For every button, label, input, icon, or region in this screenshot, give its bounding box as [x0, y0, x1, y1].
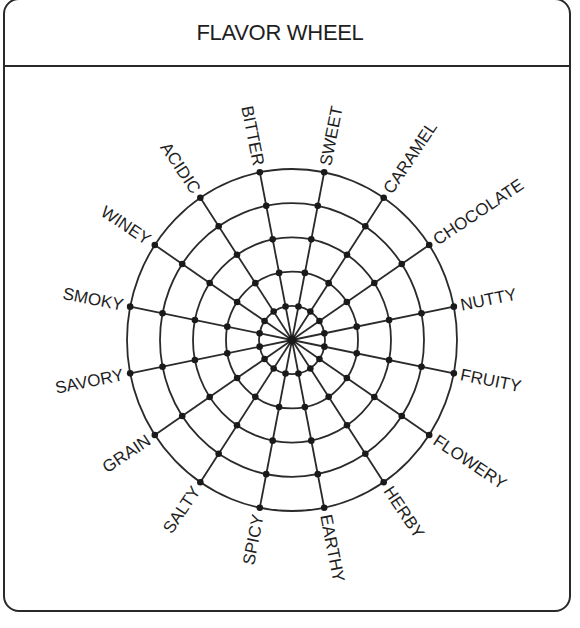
flavor-label-herby: HERBY: [380, 483, 428, 542]
spoke-dot: [325, 280, 332, 287]
spoke-dot: [344, 375, 351, 382]
spoke-dot: [224, 350, 231, 357]
spoke-dot: [252, 280, 259, 287]
spoke-dot: [179, 413, 186, 420]
spoke-dot: [308, 437, 315, 444]
spoke-dot: [234, 375, 241, 382]
flavor-label-fruity: FRUITY: [459, 365, 523, 396]
spoke-dot: [252, 394, 259, 401]
spoke-dot: [159, 363, 166, 370]
spoke-dot: [295, 370, 302, 377]
spoke-dot: [353, 350, 360, 357]
spoke-dot: [192, 317, 199, 324]
flavor-label-grain: GRAIN: [99, 431, 154, 477]
spoke-dot: [282, 303, 289, 310]
spoke-dot: [197, 195, 204, 202]
spoke-dot: [192, 357, 199, 364]
spoke-dot: [308, 236, 315, 243]
spoke-dot: [270, 308, 277, 315]
spoke-dot: [276, 404, 283, 411]
spoke-dot: [179, 261, 186, 268]
spoke-dot: [127, 370, 134, 377]
spoke-dot: [426, 432, 433, 439]
flavor-label-sweet: SWEET: [316, 104, 346, 167]
spoke-dot: [302, 404, 309, 411]
flavor-label-salty: SALTY: [159, 483, 204, 537]
spoke-dot: [386, 357, 393, 364]
spoke-dot: [314, 471, 321, 478]
spoke-dot: [282, 370, 289, 377]
flavor-label-acidic: ACIDIC: [157, 139, 205, 197]
spoke-dot: [234, 251, 241, 258]
spoke-dot: [206, 394, 213, 401]
spoke-dot: [234, 299, 241, 306]
spoke-dot: [215, 450, 222, 457]
spoke-dot: [451, 370, 458, 377]
spoke-dot: [398, 261, 405, 268]
spoke-dot: [261, 356, 268, 363]
spoke-dot: [398, 413, 405, 420]
spoke-dot: [344, 299, 351, 306]
flavor-wheel-diagram: NUTTYFRUITYFLOWERYHERBYEARTHYSPICYSALTYG…: [0, 0, 580, 628]
spoke-dot: [263, 203, 270, 210]
spoke-dot: [426, 242, 433, 249]
spoke-dot: [362, 223, 369, 230]
spoke-dot: [206, 280, 213, 287]
spoke-dot: [234, 422, 241, 429]
spoke-dot: [325, 394, 332, 401]
spoke-dot: [371, 394, 378, 401]
spoke-dot: [295, 303, 302, 310]
spoke-dot: [418, 363, 425, 370]
spoke-dot: [269, 236, 276, 243]
spoke-dot: [261, 318, 268, 325]
spoke-dot: [127, 303, 134, 310]
spoke-dot: [418, 310, 425, 317]
spoke-dot: [224, 323, 231, 330]
spoke-dot: [353, 323, 360, 330]
spoke-dot: [362, 450, 369, 457]
spoke-dot: [257, 504, 264, 511]
flavor-label-nutty: NUTTY: [459, 285, 518, 315]
spoke-dot: [451, 303, 458, 310]
flavor-label-flowery: FLOWERY: [430, 431, 510, 493]
flavor-label-smoky: SMOKY: [61, 284, 125, 315]
spoke-dot: [256, 330, 263, 337]
center-hub: [288, 336, 297, 345]
spoke-dot: [316, 356, 323, 363]
spoke-dot: [270, 365, 277, 372]
flavor-label-winey: WINEY: [97, 202, 154, 249]
spoke-dot: [371, 280, 378, 287]
flavor-label-spicy: SPICY: [239, 513, 268, 567]
flavor-label-earthy: EARTHY: [316, 513, 348, 584]
spoke-dot: [302, 270, 309, 277]
spoke-dot: [257, 169, 264, 176]
spoke-dot: [269, 437, 276, 444]
spoke-dot: [159, 310, 166, 317]
spoke-dot: [263, 471, 270, 478]
flavor-label-savory: SAVORY: [53, 365, 125, 397]
spoke-dot: [307, 308, 314, 315]
spoke-dot: [215, 223, 222, 230]
spoke-dot: [276, 270, 283, 277]
spoke-dot: [321, 169, 328, 176]
spoke-dot: [152, 242, 159, 249]
spoke-dot: [380, 479, 387, 486]
spoke-dot: [344, 422, 351, 429]
spoke-dot: [321, 343, 328, 350]
wheel-dots: [127, 169, 457, 511]
spoke-dot: [152, 432, 159, 439]
spoke-dot: [380, 195, 387, 202]
spoke-dot: [197, 479, 204, 486]
spoke-dot: [321, 504, 328, 511]
spoke-dot: [321, 330, 328, 337]
spoke-dot: [256, 343, 263, 350]
flavor-label-chocolate: CHOCOLATE: [430, 175, 527, 249]
spoke-dot: [344, 251, 351, 258]
spoke-dot: [386, 317, 393, 324]
spoke-dot: [316, 318, 323, 325]
spoke-dot: [307, 365, 314, 372]
flavor-label-caramel: CARAMEL: [380, 118, 441, 197]
spoke-dot: [314, 203, 321, 210]
flavor-label-bitter: BITTER: [237, 104, 267, 167]
